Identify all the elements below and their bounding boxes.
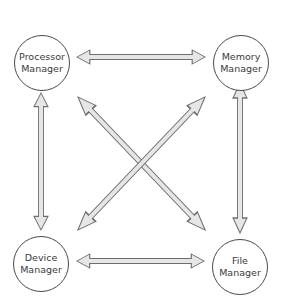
arrow-device-file [77, 254, 204, 268]
node-label-line2: Manager [220, 63, 262, 75]
arrow-processor-memory [77, 50, 205, 64]
node-label-line1: File [232, 255, 248, 267]
arrow-memory-file [233, 83, 247, 233]
node-label-line1: Processor [19, 51, 65, 63]
node-device-manager: Device Manager [13, 236, 69, 292]
node-label-line2: Manager [21, 63, 63, 75]
node-processor-manager: Processor Manager [14, 35, 70, 91]
arrow-processor-device [34, 93, 48, 230]
node-label-line1: Device [25, 252, 58, 264]
node-label-line2: Manager [20, 264, 62, 276]
node-label-line2: Manager [219, 267, 261, 279]
node-file-manager: File Manager [212, 239, 268, 295]
node-memory-manager: Memory Manager [213, 35, 269, 91]
node-label-line1: Memory [222, 51, 261, 63]
